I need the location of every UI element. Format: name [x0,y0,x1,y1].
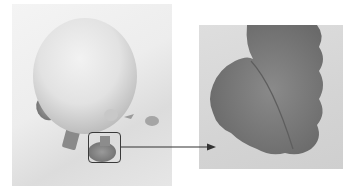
magnified-inset [199,25,343,169]
leaf-closeup [199,25,343,169]
highlight-box [88,132,121,163]
sprig [124,114,134,119]
leaf-small-right [145,116,159,126]
fruit-stem-nub [104,109,118,121]
leaf-blade [210,25,323,154]
fruit [33,18,137,134]
